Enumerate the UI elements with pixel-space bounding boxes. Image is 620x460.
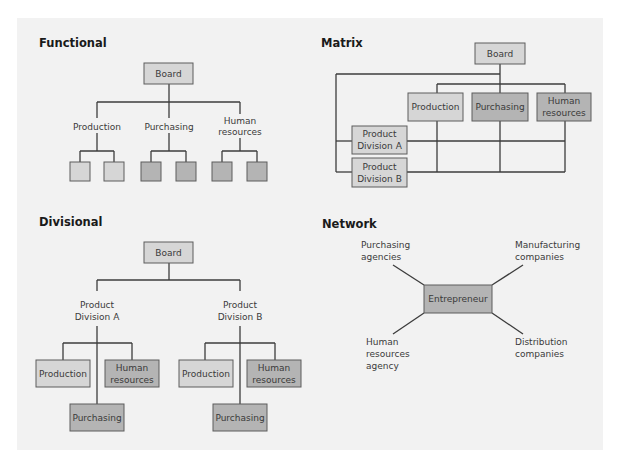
functional-board-box: Board: [144, 63, 193, 84]
divisional-b-production: Production: [179, 360, 233, 387]
matrix-board-label: Board: [487, 49, 513, 59]
divisional-board-label: Board: [155, 248, 181, 258]
matrix-division-a-line1: Product: [362, 129, 397, 139]
functional-subunit-purchasing-1: [141, 162, 161, 181]
matrix-function-production-label: Production: [412, 102, 460, 112]
functional-subunit-production-2: [104, 162, 124, 181]
divisional-division-b-line1: Product: [223, 300, 258, 310]
divisional-b-production-label: Production: [182, 369, 230, 379]
divisional-a-purchasing: Purchasing: [70, 404, 124, 431]
matrix-division-b-line1: Product: [362, 162, 397, 172]
org-structures-diagram: Functional Board Production Pu: [0, 0, 620, 460]
divisional-title: Divisional: [39, 215, 103, 229]
divisional-b-purchasing-label: Purchasing: [215, 413, 264, 423]
matrix-function-production: Production: [408, 93, 463, 121]
network-purchasing-agencies-line1: Purchasing: [361, 240, 410, 250]
network-distribution-line2: companies: [515, 349, 564, 359]
matrix-function-hr-line1: Human: [548, 96, 580, 106]
divisional-b-hr-line2: resources: [252, 375, 296, 385]
network-purchasing-agencies-line2: agencies: [361, 252, 401, 262]
functional-section: Functional Board Production Pu: [39, 36, 267, 181]
functional-dept-production: Production: [73, 122, 121, 132]
matrix-function-hr: Human resources: [537, 93, 591, 121]
network-manufacturing-line1: Manufacturing: [515, 240, 580, 250]
functional-subunit-hr-1: [212, 162, 232, 181]
divisional-a-hr-line1: Human: [116, 363, 148, 373]
network-entrepreneur-label: Entrepreneur: [428, 294, 488, 304]
matrix-function-purchasing: Purchasing: [472, 93, 528, 121]
functional-subunit-purchasing-2: [176, 162, 196, 181]
divisional-board-box: Board: [144, 242, 193, 263]
divisional-a-production-label: Production: [39, 369, 87, 379]
network-hr-agency-line2: resources: [366, 349, 410, 359]
divisional-division-a-line2: Division A: [75, 312, 121, 322]
network-section: Network Entrepreneur Purchasing agencies…: [322, 217, 580, 371]
divisional-a-hr: Human resources: [105, 360, 159, 387]
divisional-division-a-line1: Product: [80, 300, 115, 310]
functional-subunits: [70, 162, 267, 181]
functional-dept-hr-line1: Human: [224, 116, 256, 126]
matrix-section: Matrix Board Production: [321, 36, 591, 187]
matrix-division-a: Product Division A: [352, 126, 407, 154]
functional-subunit-hr-2: [247, 162, 267, 181]
matrix-division-a-line2: Division A: [357, 141, 403, 151]
network-manufacturing-line2: companies: [515, 252, 564, 262]
matrix-board-box: Board: [475, 43, 525, 64]
functional-board-label: Board: [155, 69, 181, 79]
functional-dept-purchasing: Purchasing: [144, 122, 193, 132]
network-hr-agency-line3: agency: [366, 361, 399, 371]
divisional-a-production: Production: [36, 360, 90, 387]
divisional-connectors: [63, 263, 275, 404]
divisional-b-hr: Human resources: [247, 360, 301, 387]
divisional-division-b-line2: Division B: [218, 312, 263, 322]
divisional-a-hr-line2: resources: [110, 375, 154, 385]
divisional-b-hr-line1: Human: [258, 363, 290, 373]
network-entrepreneur-box: Entrepreneur: [424, 285, 492, 313]
divisional-a-purchasing-label: Purchasing: [72, 413, 121, 423]
functional-dept-hr-line2: resources: [218, 127, 262, 137]
divisional-b-purchasing: Purchasing: [213, 404, 267, 431]
matrix-function-hr-line2: resources: [542, 108, 586, 118]
matrix-division-b: Product Division B: [352, 158, 407, 187]
network-distribution-line1: Distribution: [515, 337, 568, 347]
matrix-title: Matrix: [321, 36, 363, 50]
matrix-function-purchasing-label: Purchasing: [475, 102, 524, 112]
divisional-section: Divisional Board Product Division A Prod…: [36, 215, 301, 431]
matrix-division-b-line2: Division B: [357, 174, 402, 184]
network-title: Network: [322, 217, 377, 231]
functional-title: Functional: [39, 36, 107, 50]
network-hr-agency-line1: Human: [366, 337, 398, 347]
functional-subunit-production-1: [70, 162, 90, 181]
